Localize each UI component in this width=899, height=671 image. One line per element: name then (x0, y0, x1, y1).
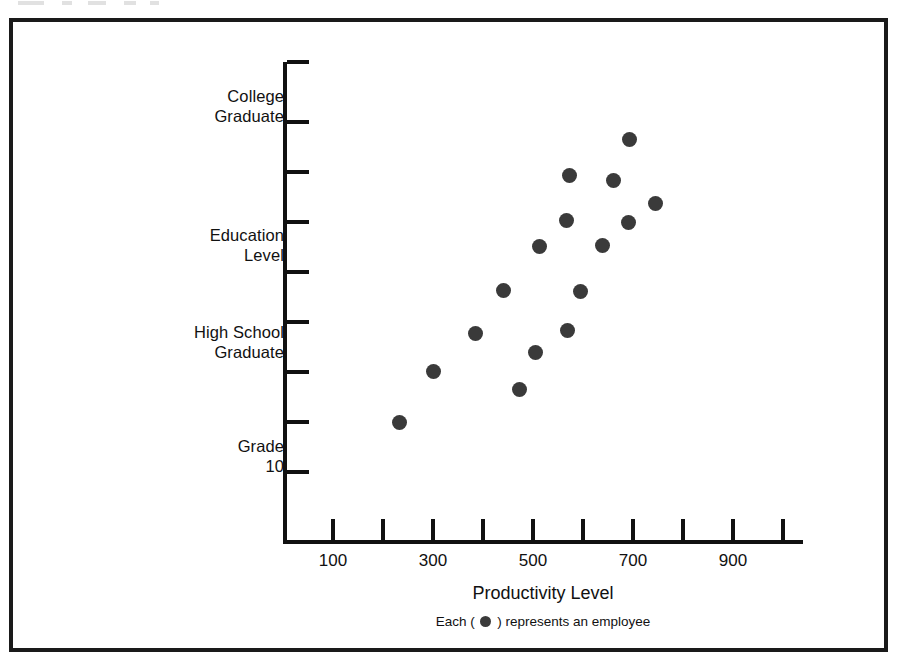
data-point (559, 213, 574, 228)
y-axis-label: Grade 10 (238, 436, 284, 476)
y-axis-tick (287, 270, 309, 274)
data-point (648, 196, 663, 211)
x-axis-tick-label: 700 (603, 551, 663, 571)
data-point (528, 345, 543, 360)
data-point (622, 132, 637, 147)
y-axis-label: High School Graduate (194, 322, 284, 362)
x-axis-tick (731, 519, 735, 540)
x-axis-tick (681, 519, 685, 540)
caption-suffix: ) represents an employee (497, 614, 650, 629)
y-axis-label: Education Level (210, 225, 284, 265)
x-axis-tick (331, 519, 335, 540)
data-point (496, 283, 511, 298)
page-canvas: College GraduateEducation LevelHigh Scho… (0, 0, 899, 671)
data-point (562, 168, 577, 183)
legend-marker-icon (480, 616, 491, 627)
caption-prefix: Each ( (436, 614, 475, 629)
figure-caption: Each ( ) represents an employee (283, 614, 803, 629)
data-point (426, 364, 441, 379)
x-axis-tick-label: 900 (703, 551, 763, 571)
x-axis-tick (481, 519, 485, 540)
data-point (560, 323, 575, 338)
data-point (512, 382, 527, 397)
data-point (532, 239, 547, 254)
x-axis-tick (531, 519, 535, 540)
y-axis-tick (287, 470, 309, 474)
y-axis-tick (287, 60, 309, 64)
x-axis-tick-label: 100 (303, 551, 363, 571)
scatter-plot: College GraduateEducation LevelHigh Scho… (0, 0, 899, 671)
y-axis-tick (287, 320, 309, 324)
data-point (468, 326, 483, 341)
data-point (392, 415, 407, 430)
x-axis-tick (581, 519, 585, 540)
x-axis-tick-label: 300 (403, 551, 463, 571)
data-point (606, 173, 621, 188)
y-axis-tick (287, 370, 309, 374)
data-point (595, 238, 610, 253)
x-axis-tick (431, 519, 435, 540)
y-axis-tick (287, 420, 309, 424)
data-point (621, 215, 636, 230)
x-axis-tick (781, 519, 785, 540)
x-axis-tick (381, 519, 385, 540)
x-axis-tick-label: 500 (503, 551, 563, 571)
x-axis-line (283, 540, 803, 544)
y-axis-tick (287, 120, 309, 124)
data-point (573, 284, 588, 299)
y-axis-tick (287, 220, 309, 224)
y-axis-tick (287, 170, 309, 174)
x-axis-tick (631, 519, 635, 540)
y-axis-label: College Graduate (214, 86, 284, 126)
x-axis-title: Productivity Level (283, 583, 803, 604)
